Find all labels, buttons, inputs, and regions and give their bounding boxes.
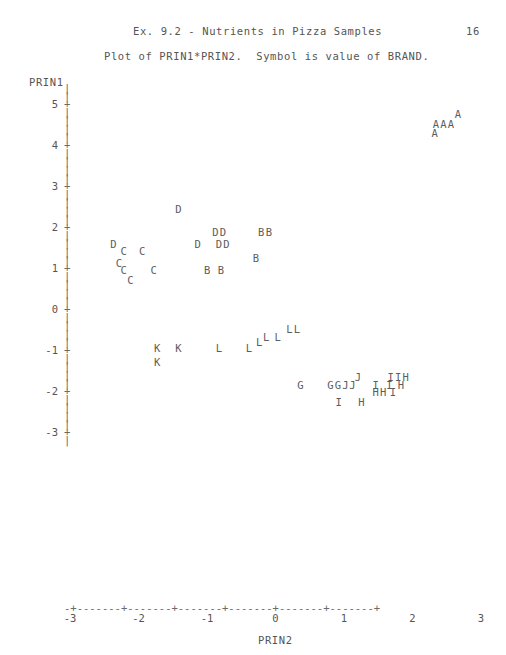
- data-point-symbol: H: [358, 397, 366, 407]
- y-tick-label: -3: [34, 427, 58, 437]
- data-point-symbol: I: [336, 397, 344, 407]
- data-point-symbol: DD: [216, 239, 231, 249]
- x-tick-label: -3: [60, 613, 80, 623]
- x-axis-line: -+-------+-------+-------+-------+------…: [64, 603, 380, 613]
- x-tick-label: 1: [334, 613, 354, 623]
- y-axis-tick-filler: |: [64, 337, 70, 347]
- y-tick-label: 1: [34, 263, 58, 273]
- x-tick-label: 2: [403, 613, 423, 623]
- data-point-symbol: D: [194, 239, 202, 249]
- y-axis-tick-filler: |: [64, 173, 70, 183]
- y-tick-label: 5: [34, 99, 58, 109]
- y-axis-tick-filler: |: [64, 435, 70, 445]
- y-axis-tick-filler: |: [64, 214, 70, 224]
- data-point-symbol: K: [154, 357, 162, 367]
- data-point-symbol: D: [175, 204, 183, 214]
- data-point-symbol: A: [448, 119, 456, 129]
- x-axis-label: PRIN2: [258, 634, 293, 646]
- data-point-symbol: L: [256, 337, 264, 347]
- data-point-symbol: B: [253, 253, 261, 263]
- y-axis-tick-filler: |: [64, 91, 70, 101]
- y-tick-label: 4: [34, 140, 58, 150]
- page-title: Ex. 9.2 - Nutrients in Pizza Samples: [133, 25, 382, 37]
- y-tick-label: 3: [34, 181, 58, 191]
- data-point-symbol: G: [297, 380, 305, 390]
- y-tick-label: -2: [34, 386, 58, 396]
- data-point-symbol: C: [127, 275, 135, 285]
- page-number: 16: [466, 25, 480, 37]
- x-tick-label: -2: [129, 613, 149, 623]
- y-axis-tick-filler: |: [64, 132, 70, 142]
- data-point-symbol: A: [431, 128, 439, 138]
- data-point-symbol: L: [246, 343, 254, 353]
- data-point-symbol: C: [139, 246, 147, 256]
- data-point-symbol: K: [175, 343, 183, 353]
- plot-subtitle: Plot of PRIN1*PRIN2. Symbol is value of …: [104, 50, 429, 62]
- data-point-symbol: HH: [373, 387, 388, 397]
- data-point-symbol: D: [110, 239, 118, 249]
- data-point-symbol: GGJ: [327, 380, 350, 390]
- data-point-symbol: I: [390, 387, 398, 397]
- x-tick-label: -1: [197, 613, 217, 623]
- y-tick-label: 0: [34, 304, 58, 314]
- data-point-symbol: C: [120, 246, 128, 256]
- data-point-symbol: H: [398, 380, 406, 390]
- data-point-symbol: K: [154, 343, 162, 353]
- y-axis-tick-filler: |: [64, 378, 70, 388]
- y-tick-label: 2: [34, 222, 58, 232]
- data-point-symbol: L: [263, 332, 271, 342]
- data-point-symbol: C: [151, 265, 159, 275]
- data-point-symbol: LL: [286, 324, 301, 334]
- x-tick-label: 0: [266, 613, 286, 623]
- x-tick-label: 3: [471, 613, 491, 623]
- y-axis-tick-filler: |: [64, 255, 70, 265]
- data-point-symbol: B: [218, 265, 226, 275]
- data-point-symbol: BB: [258, 227, 273, 237]
- data-point-symbol: L: [275, 332, 283, 342]
- data-point-symbol: A: [455, 109, 463, 119]
- data-point-symbol: J: [349, 380, 357, 390]
- data-point-symbol: B: [204, 265, 212, 275]
- y-axis-label: PRIN1: [29, 76, 64, 88]
- y-axis-tick-filler: |: [64, 419, 70, 429]
- sas-plot-page: Ex. 9.2 - Nutrients in Pizza Samples 16 …: [0, 0, 506, 655]
- data-point-symbol: L: [216, 343, 224, 353]
- y-axis-tick-filler: |: [64, 296, 70, 306]
- data-point-symbol: DD: [212, 227, 227, 237]
- y-tick-label: -1: [34, 345, 58, 355]
